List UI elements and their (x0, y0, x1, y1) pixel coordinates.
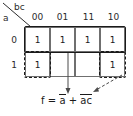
expression-plus: + (69, 95, 77, 106)
kmap-grid: 1 1 1 1 1 1 (25, 27, 126, 79)
cell-r1-c01 (50, 52, 75, 77)
column-header-11: 11 (76, 13, 101, 22)
boolean-expression: f = a + ac (0, 96, 133, 106)
column-header-00: 00 (25, 13, 50, 22)
columns-variable-label: bc (14, 3, 25, 12)
cell-r0-c01: 1 (50, 27, 75, 52)
row-header-1: 1 (8, 61, 20, 70)
cell-r1-c10: 1 (100, 52, 125, 77)
column-header-01: 01 (50, 13, 75, 22)
cell-r0-c11: 1 (75, 27, 100, 52)
cell-r1-c00: 1 (25, 52, 50, 77)
column-header-10: 10 (101, 13, 126, 22)
karnaugh-map-diagram: bc a 00 01 11 10 0 1 1 1 1 1 1 1 f = a +… (0, 0, 133, 116)
expression-term2: ac (80, 94, 92, 106)
cell-r1-c11 (75, 52, 100, 77)
expression-equals: = (48, 95, 56, 106)
cell-r0-c10: 1 (100, 27, 125, 52)
rows-variable-label: a (3, 14, 9, 23)
row-header-0: 0 (8, 36, 20, 45)
cell-r0-c00: 1 (25, 27, 50, 52)
